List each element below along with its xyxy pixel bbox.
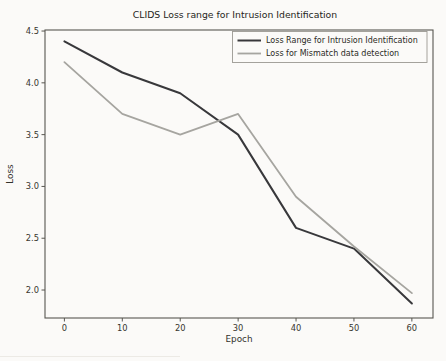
y-tick-label: 4.5 [26,26,39,36]
x-tick-label: 20 [175,323,186,333]
legend-label-intrusion: Loss Range for Intrusion Identification [266,36,418,45]
chart-title: CLIDS Loss range for Intrusion Identific… [133,9,338,20]
data-series [64,41,412,303]
y-tick-label: 3.0 [26,181,39,191]
x-axis-label: Epoch [226,334,253,344]
photo-artifact-line [0,356,180,357]
x-tick-label: 30 [233,323,244,333]
x-tick-label: 40 [291,323,302,333]
series-line-intrusion [64,41,412,303]
y-tick-label: 2.5 [26,233,39,243]
legend: Loss Range for Intrusion Identification … [233,32,428,63]
x-tick-label: 0 [62,323,67,333]
y-tick-label: 4.0 [26,78,39,88]
x-tick-label: 50 [349,323,360,333]
y-tick-label: 2.0 [26,285,39,295]
x-tick-label: 10 [117,323,128,333]
plot-border [45,30,433,318]
line-chart: CLIDS Loss range for Intrusion Identific… [0,0,446,361]
series-line-mismatch [64,62,412,293]
y-axis-ticks: 2.02.53.03.54.04.5 [26,26,45,295]
x-tick-label: 60 [407,323,418,333]
y-tick-label: 3.5 [26,130,39,140]
y-axis-label: Loss [5,164,15,184]
chart-figure: CLIDS Loss range for Intrusion Identific… [0,0,446,361]
legend-label-mismatch: Loss for Mismatch data detection [266,49,399,58]
x-axis-ticks: 0102030405060 [62,318,417,333]
